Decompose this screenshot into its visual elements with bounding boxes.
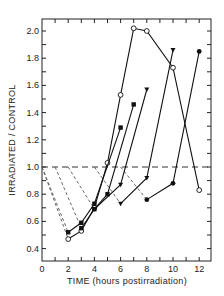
data-point-filled-circle (197, 49, 202, 54)
chart: 0246810120.40.60.81.01.21.41.61.82.0 TIM… (0, 0, 224, 296)
data-point-filled-triangle (144, 87, 149, 92)
y-axis-title: IRRADIATED / CONTROL (7, 84, 17, 195)
y-tick-label: 1.0 (26, 162, 39, 172)
x-tick-label: 12 (194, 264, 204, 274)
x-tick-label: 8 (144, 264, 149, 274)
data-point-open-circle (131, 26, 136, 31)
plot-frame (42, 19, 211, 261)
y-tick-label: 0.4 (26, 244, 39, 254)
x-axis-title: TIME (hours postirradiation) (67, 276, 187, 286)
data-point-filled-circle (171, 181, 176, 186)
tick-labels: 0246810120.40.60.81.01.21.41.61.82.0 (26, 26, 204, 274)
drop-line (55, 167, 81, 228)
data-series (66, 26, 202, 242)
x-tick-label: 10 (168, 264, 178, 274)
y-tick-label: 1.8 (26, 53, 39, 63)
drop-line (42, 167, 68, 232)
data-point-filled-circle (144, 197, 149, 202)
x-tick-label: 0 (39, 264, 44, 274)
series-line (121, 50, 173, 204)
y-tick-label: 1.6 (26, 80, 39, 90)
data-point-open-circle (171, 65, 176, 70)
drop-line (94, 167, 120, 204)
axis-ticks (42, 19, 211, 261)
y-tick-label: 0.8 (26, 189, 39, 199)
data-point-filled-square (118, 125, 122, 129)
data-point-filled-square (79, 221, 83, 225)
series-open-circles (66, 26, 202, 242)
drop-line (68, 167, 94, 209)
data-point-open-circle (144, 29, 149, 34)
series-line (147, 51, 199, 199)
y-tick-label: 0.6 (26, 216, 39, 226)
data-point-filled-triangle (118, 202, 123, 207)
y-tick-label: 2.0 (26, 26, 39, 36)
series-filled-a (66, 125, 123, 234)
data-point-open-circle (197, 188, 202, 193)
x-tick-label: 4 (92, 264, 97, 274)
data-point-open-circle (118, 93, 123, 98)
y-tick-label: 1.2 (26, 135, 39, 145)
x-tick-label: 6 (118, 264, 123, 274)
data-point-open-circle (66, 237, 71, 242)
series-line (68, 28, 199, 239)
series-line (68, 128, 120, 233)
data-point-filled-square (92, 202, 96, 206)
data-point-filled-square (79, 226, 83, 230)
data-point-filled-triangle (171, 48, 176, 53)
x-tick-label: 2 (66, 264, 71, 274)
y-tick-label: 1.4 (26, 108, 39, 118)
data-point-filled-square (66, 230, 70, 234)
series-filled-e (144, 49, 201, 202)
data-point-filled-square (132, 102, 136, 106)
